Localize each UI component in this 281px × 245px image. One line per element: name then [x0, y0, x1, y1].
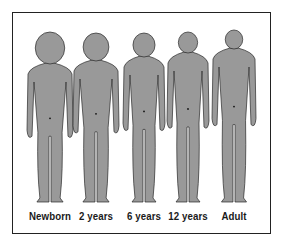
- label-2-years: 2 years: [70, 210, 123, 222]
- label-newborn: Newborn: [24, 210, 77, 222]
- head: [225, 30, 242, 49]
- head: [133, 33, 155, 57]
- head: [35, 32, 64, 64]
- figure-newborn: [27, 32, 73, 202]
- figure-12-years: [167, 32, 209, 202]
- label-adult: Adult: [208, 210, 261, 222]
- figure-6-years: [123, 33, 165, 202]
- label-12-years: 12 years: [162, 210, 215, 222]
- body-proportions-figures: [0, 0, 281, 245]
- figure-adult: [212, 30, 256, 202]
- head: [178, 32, 197, 53]
- head: [83, 33, 109, 61]
- figure-2-years: [73, 33, 119, 202]
